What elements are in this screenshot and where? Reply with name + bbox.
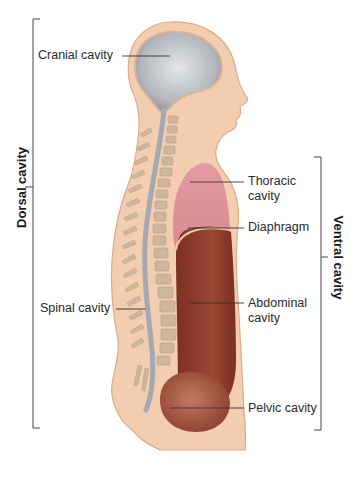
abdominal-cavity-label-line2: cavity	[248, 311, 280, 326]
thoracic-cavity-label-line1: Thoracic	[248, 174, 296, 189]
ventral-bracket	[314, 157, 328, 430]
body-cavities-diagram: Cranial cavity Spinal cavity Thoracic ca…	[0, 0, 354, 488]
thoracic-cavity-label-line2: cavity	[248, 189, 280, 204]
ventral-cavity-label: Ventral cavity	[331, 208, 346, 308]
spinal-cavity-label: Spinal cavity	[40, 301, 110, 316]
dorsal-cavity-label: Dorsal cavity	[14, 138, 29, 238]
abdominal-cavity-label-line1: Abdominal	[248, 296, 307, 311]
pelvic-cavity-label: Pelvic cavity	[248, 401, 317, 416]
cranial-cavity-label: Cranial cavity	[38, 48, 113, 63]
diaphragm-label: Diaphragm	[248, 220, 309, 235]
